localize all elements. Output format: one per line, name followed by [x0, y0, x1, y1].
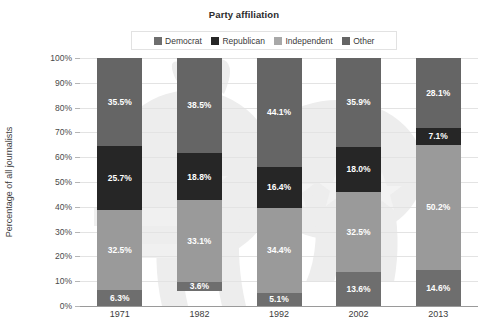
bar-segment-democrat[interactable]: 6.3%: [97, 290, 142, 306]
bar-segment-republican[interactable]: 18.8%: [177, 153, 222, 200]
stacked-bar[interactable]: 35.9%18.0%32.5%13.6%: [336, 58, 381, 306]
bar-segment-democrat[interactable]: 3.6%: [177, 282, 222, 291]
bar-group: 35.5%25.7%32.5%6.3%: [97, 58, 142, 306]
y-axis-tick-label: 0%: [2, 301, 72, 311]
legend-item-democrat[interactable]: Democrat: [154, 36, 202, 46]
bar-segment-value-label: 33.1%: [187, 237, 211, 246]
page-title: Party affiliation: [0, 9, 488, 20]
x-axis-tick-label: 2002: [329, 309, 389, 319]
bar-segment-value-label: 18.8%: [187, 173, 211, 182]
bar-segment-value-label: 35.5%: [108, 98, 132, 107]
legend-item-label: Independent: [285, 36, 332, 46]
bar-segment-value-label: 32.5%: [347, 228, 371, 237]
bar-segment-value-label: 7.1%: [429, 132, 448, 141]
y-axis-tick: [75, 58, 80, 59]
y-axis-tick: [75, 83, 80, 84]
bar-segment-value-label: 35.9%: [347, 98, 371, 107]
bar-segment-other[interactable]: 35.5%: [97, 58, 142, 146]
x-axis-line: [80, 306, 478, 307]
y-axis-tick-label: 80%: [2, 103, 72, 113]
y-axis-tick-label: 20%: [2, 251, 72, 261]
bar-segment-independent[interactable]: 32.5%: [336, 192, 381, 273]
bar-segment-value-label: 6.3%: [110, 294, 129, 303]
bar-group: 38.5%18.8%33.1%3.6%: [177, 58, 222, 306]
y-axis-tick: [75, 232, 80, 233]
y-axis-tick-label: 100%: [2, 53, 72, 63]
bar-segment-value-label: 25.7%: [108, 174, 132, 183]
chart-root: Party affiliation Democrat Republican In…: [0, 0, 488, 331]
legend-item-label: Republican: [222, 36, 265, 46]
bar-segment-value-label: 3.6%: [190, 282, 209, 291]
square-swatch-icon: [274, 37, 282, 45]
y-axis-tick-label: 30%: [2, 227, 72, 237]
y-axis-tick: [75, 157, 80, 158]
plot-area: 35.5%25.7%32.5%6.3%38.5%18.8%33.1%3.6%44…: [80, 58, 478, 306]
y-axis-tick: [75, 132, 80, 133]
bar-group: 35.9%18.0%32.5%13.6%: [336, 58, 381, 306]
y-axis-tick: [75, 182, 80, 183]
x-axis-tick-label: 2013: [408, 309, 468, 319]
bar-segment-democrat[interactable]: 13.6%: [336, 272, 381, 306]
x-axis-tick-label: 1982: [169, 309, 229, 319]
y-axis-tick-label: 70%: [2, 127, 72, 137]
stacked-bar[interactable]: 38.5%18.8%33.1%3.6%: [177, 58, 222, 306]
bar-segment-other[interactable]: 28.1%: [416, 58, 461, 128]
y-axis-tick-label: 60%: [2, 152, 72, 162]
bar-segment-republican[interactable]: 7.1%: [416, 128, 461, 146]
chart-legend: Democrat Republican Independent Other: [131, 31, 397, 50]
bar-segment-republican[interactable]: 16.4%: [257, 167, 302, 208]
square-swatch-icon: [342, 37, 350, 45]
y-axis-tick: [75, 281, 80, 282]
legend-item-independent[interactable]: Independent: [274, 36, 333, 46]
bar-segment-value-label: 50.2%: [426, 203, 450, 212]
bar-group: 44.1%16.4%34.4%5.1%: [257, 58, 302, 306]
bar-segment-independent[interactable]: 50.2%: [416, 145, 461, 269]
bar-segment-republican[interactable]: 18.0%: [336, 147, 381, 192]
bar-segment-democrat[interactable]: 14.6%: [416, 270, 461, 306]
stacked-bar[interactable]: 44.1%16.4%34.4%5.1%: [257, 58, 302, 306]
bar-segment-value-label: 5.1%: [269, 295, 288, 304]
y-axis-tick-label: 50%: [2, 177, 72, 187]
bar-segment-value-label: 13.6%: [347, 285, 371, 294]
x-axis-tick-label: 1971: [90, 309, 150, 319]
square-swatch-icon: [154, 37, 162, 45]
bar-segment-value-label: 14.6%: [426, 284, 450, 293]
bar-group: 28.1%7.1%50.2%14.6%: [416, 58, 461, 306]
legend-item-republican[interactable]: Republican: [211, 36, 265, 46]
y-axis-tick-label: 40%: [2, 202, 72, 212]
y-axis-tick: [75, 256, 80, 257]
legend-item-other[interactable]: Other: [342, 36, 375, 46]
bar-segment-value-label: 18.0%: [347, 165, 371, 174]
bar-segment-value-label: 16.4%: [267, 183, 291, 192]
bar-segment-other[interactable]: 44.1%: [257, 58, 302, 167]
x-axis-tick-label: 1992: [249, 309, 309, 319]
bar-segment-value-label: 32.5%: [108, 246, 132, 255]
y-axis-tick: [75, 108, 80, 109]
bar-segment-independent[interactable]: 33.1%: [177, 200, 222, 282]
bar-segment-value-label: 34.4%: [267, 246, 291, 255]
y-axis-tick-label: 90%: [2, 78, 72, 88]
y-axis-tick: [75, 207, 80, 208]
legend-item-label: Other: [353, 36, 374, 46]
bar-segment-democrat[interactable]: 5.1%: [257, 293, 302, 306]
stacked-bar[interactable]: 35.5%25.7%32.5%6.3%: [97, 58, 142, 306]
legend-item-label: Democrat: [165, 36, 202, 46]
y-axis-tick-label: 10%: [2, 276, 72, 286]
square-swatch-icon: [211, 37, 219, 45]
stacked-bar[interactable]: 28.1%7.1%50.2%14.6%: [416, 58, 461, 306]
bar-segment-other[interactable]: 38.5%: [177, 58, 222, 153]
bar-segment-independent[interactable]: 32.5%: [97, 210, 142, 291]
bar-segment-value-label: 44.1%: [267, 108, 291, 117]
y-axis-tick: [75, 306, 80, 307]
bar-segment-independent[interactable]: 34.4%: [257, 208, 302, 293]
bar-segment-other[interactable]: 35.9%: [336, 58, 381, 147]
bar-segment-value-label: 38.5%: [187, 101, 211, 110]
bar-segment-value-label: 28.1%: [426, 89, 450, 98]
bar-segment-republican[interactable]: 25.7%: [97, 146, 142, 210]
